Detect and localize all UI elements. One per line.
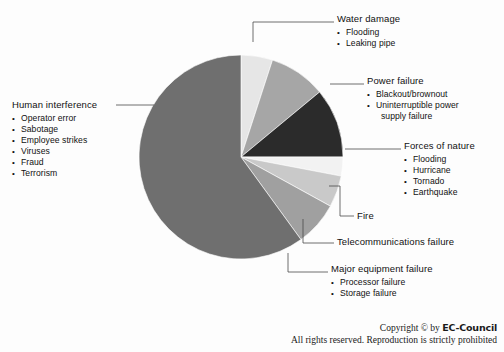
callout-item: Employee strikes xyxy=(12,135,97,146)
pie-slice-group xyxy=(139,55,343,259)
callout-item: Leaking pipe xyxy=(337,38,400,49)
slide-canvas: Water damage Flooding Leaking pipe Power… xyxy=(0,0,504,352)
callout-item: Uninterruptible power xyxy=(367,100,459,111)
callout-title-major-equipment-failure: Major equipment failure xyxy=(331,263,433,275)
callout-telecommunications-failure: Telecommunications failure xyxy=(337,236,454,248)
callout-forces-of-nature: Forces of nature Flooding Hurricane Torn… xyxy=(404,140,475,198)
callout-major-equipment-failure: Major equipment failure Processor failur… xyxy=(331,263,433,299)
callout-items-power-failure: Blackout/brownout Uninterruptible power … xyxy=(367,89,459,122)
footer: Copyright © by EC-Council All rights res… xyxy=(291,322,497,346)
callout-title-water-damage: Water damage xyxy=(337,13,400,25)
callout-item: Terrorism xyxy=(12,168,97,179)
callout-fire: Fire xyxy=(357,210,374,222)
callout-item: Flooding xyxy=(404,154,475,165)
callout-item: Viruses xyxy=(12,146,97,157)
callout-item: Sabotage xyxy=(12,124,97,135)
callout-item: Storage failure xyxy=(331,288,433,299)
callout-title-telecommunications-failure: Telecommunications failure xyxy=(337,236,454,248)
callout-items-water-damage: Flooding Leaking pipe xyxy=(337,27,400,49)
callout-item-continuation: supply failure xyxy=(367,111,459,122)
rights-reserved-line: All rights reserved. Reproduction is str… xyxy=(291,334,497,346)
callout-items-major-equipment-failure: Processor failure Storage failure xyxy=(331,277,433,299)
pie-chart xyxy=(138,36,344,278)
callout-human-interference: Human interference Operator error Sabota… xyxy=(12,99,97,179)
callout-items-human-interference: Operator error Sabotage Employee strikes… xyxy=(12,113,97,179)
callout-water-damage: Water damage Flooding Leaking pipe xyxy=(337,13,400,49)
copyright-prefix: Copyright © by xyxy=(380,323,442,333)
callout-item: Tornado xyxy=(404,176,475,187)
callout-title-forces-of-nature: Forces of nature xyxy=(404,140,475,152)
callout-item: Fraud xyxy=(12,157,97,168)
callout-item: Earthquake xyxy=(404,187,475,198)
callout-item: Operator error xyxy=(12,113,97,124)
callout-title-fire: Fire xyxy=(357,210,374,222)
callout-item: Blackout/brownout xyxy=(367,89,459,100)
callout-item: Flooding xyxy=(337,27,400,38)
callout-title-human-interference: Human interference xyxy=(12,99,97,111)
callout-item: Processor failure xyxy=(331,277,433,288)
pie-chart-svg xyxy=(138,36,344,278)
copyright-line: Copyright © by EC-Council xyxy=(291,322,497,334)
brand-name: EC-Council xyxy=(442,322,497,333)
callout-title-power-failure: Power failure xyxy=(367,75,459,87)
callout-power-failure: Power failure Blackout/brownout Uninterr… xyxy=(367,75,459,122)
callout-items-forces-of-nature: Flooding Hurricane Tornado Earthquake xyxy=(404,154,475,198)
callout-item: Hurricane xyxy=(404,165,475,176)
